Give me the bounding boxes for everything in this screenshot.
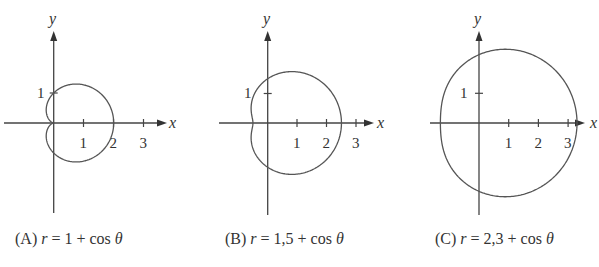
panel-c: 1 2 3 1 x y [430, 10, 597, 215]
caption-theta: θ [546, 230, 554, 247]
caption-eq: = [467, 230, 484, 247]
y-axis-label: y [261, 10, 271, 28]
x-tick-label-3: 3 [564, 135, 572, 151]
x-tick-label-1: 1 [293, 135, 301, 151]
y-axis-label: y [47, 10, 57, 28]
x-tick-label-2: 2 [323, 135, 331, 151]
y-axis-arrow-icon [50, 31, 57, 41]
panel-b: 1 2 3 1 x y [219, 10, 384, 215]
y-axis-arrow-icon [264, 31, 271, 41]
x-tick-label-1: 1 [505, 135, 513, 151]
polar-curves-figure: 1 2 3 1 x y 1 2 3 1 x y 1 2 3 [0, 0, 599, 267]
x-axis-label: x [589, 114, 597, 131]
panel-a: 1 2 3 1 x y [4, 10, 176, 213]
y-tick-label-1: 1 [37, 85, 45, 101]
caption-theta: θ [115, 230, 123, 247]
x-tick-label-1: 1 [80, 135, 88, 151]
caption-eq: = [257, 230, 274, 247]
caption-rhs: 1,5 + cos [274, 230, 336, 247]
caption-letter: (B) [225, 230, 246, 247]
caption-letter: (C) [435, 230, 456, 247]
caption-b: (B) r = 1,5 + cos θ [225, 230, 344, 248]
caption-theta: θ [336, 230, 344, 247]
x-tick-label-3: 3 [140, 135, 148, 151]
x-axis-label: x [376, 114, 384, 131]
y-tick-label-1: 1 [244, 85, 252, 101]
caption-rhs: 1 + cos [64, 230, 114, 247]
x-tick-label-2: 2 [534, 135, 542, 151]
caption-rhs: 2,3 + cos [484, 230, 546, 247]
x-axis-arrow-icon [157, 120, 167, 127]
caption-c: (C) r = 2,3 + cos θ [435, 230, 554, 248]
x-axis-label: x [168, 114, 176, 131]
caption-letter: (A) [15, 230, 37, 247]
y-axis-label: y [472, 10, 482, 28]
x-axis-arrow-icon [364, 120, 374, 127]
caption-a: (A) r = 1 + cos θ [15, 230, 123, 248]
y-tick-label-1: 1 [460, 85, 468, 101]
y-axis-arrow-icon [476, 31, 483, 41]
caption-eq: = [47, 230, 64, 247]
x-tick-label-3: 3 [352, 135, 360, 151]
